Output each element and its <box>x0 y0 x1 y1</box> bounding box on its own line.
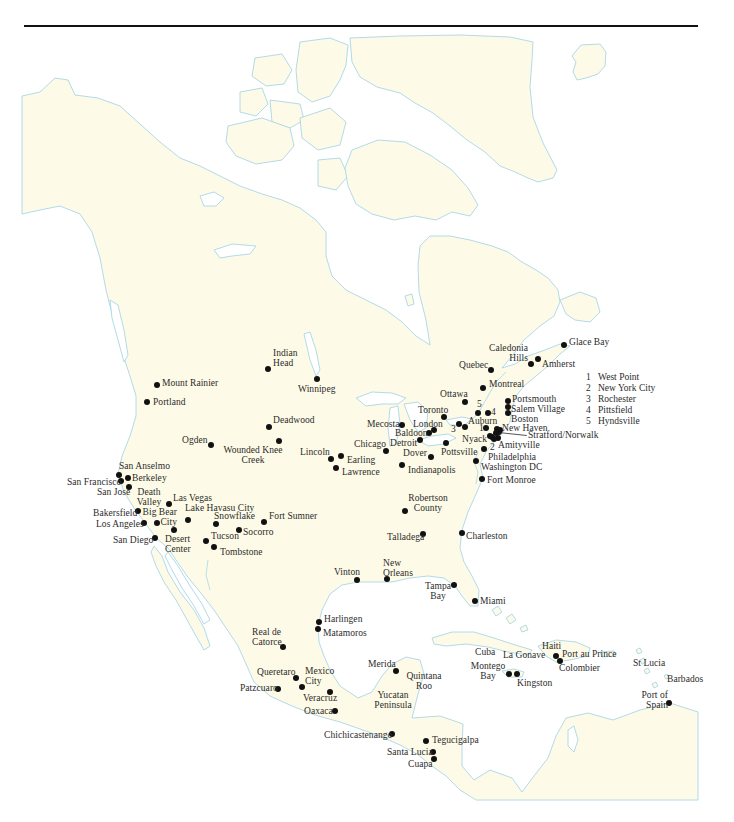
place-label-washington-dc[interactable]: Washington DC <box>481 462 542 472</box>
place-label-san-diego[interactable]: San Diego <box>113 535 153 545</box>
place-dot-pottsville[interactable] <box>443 440 449 446</box>
place-label-amityville[interactable]: Amityville <box>498 440 540 450</box>
place-label-snowflake[interactable]: Snowflake <box>214 511 255 521</box>
place-label-tampa-bay[interactable]: TampaBay <box>425 581 451 601</box>
place-label-port-of-spain[interactable]: Port ofSpain <box>642 690 668 710</box>
place-dot-tegucigalpa[interactable] <box>423 738 429 744</box>
place-dot-indian-head[interactable] <box>265 366 271 372</box>
place-label-baldoon[interactable]: Baldoon <box>395 428 428 438</box>
place-dot-wounded-knee-creek[interactable] <box>276 438 282 444</box>
place-dot-berkeley[interactable] <box>125 475 131 481</box>
place-label-cuba[interactable]: Cuba <box>475 647 495 657</box>
place-label-boston[interactable]: Boston <box>511 414 538 424</box>
place-label-cuapa[interactable]: Cuapa <box>408 759 433 769</box>
place-label-san-jose[interactable]: San Jose <box>97 487 130 497</box>
place-dot-tucson[interactable] <box>203 538 209 544</box>
numbered-place-dot-5[interactable] <box>475 410 481 416</box>
place-label-barbados[interactable]: Barbados <box>667 674 703 684</box>
place-label-patzcuaro[interactable]: Patzcuaro <box>240 683 278 693</box>
place-label-winnipeg[interactable]: Winnipeg <box>298 384 335 394</box>
place-dot-philadelphia[interactable] <box>481 446 487 452</box>
place-dot-portsmouth[interactable] <box>505 398 511 404</box>
place-dot-deadwood[interactable] <box>266 424 272 430</box>
place-label-harlingen[interactable]: Harlingen <box>324 614 362 624</box>
place-label-london[interactable]: London <box>413 419 443 429</box>
place-label-las-vegas[interactable]: Las Vegas <box>173 493 212 503</box>
place-label-san-francisco[interactable]: San Francisco <box>67 477 121 487</box>
place-dot-lawrence[interactable] <box>333 465 339 471</box>
place-label-haiti[interactable]: Haiti <box>542 641 561 651</box>
place-label-desert-center[interactable]: DesertCenter <box>165 534 191 554</box>
place-label-merida[interactable]: Merida <box>368 659 396 669</box>
place-label-detroit[interactable]: Detroit <box>390 438 417 448</box>
place-label-big-bear-city[interactable]: Big BearCity <box>143 507 177 527</box>
place-dot-charleston[interactable] <box>459 530 465 536</box>
place-label-bakersfield[interactable]: Bakersfield <box>93 508 137 518</box>
place-dot-harlingen[interactable] <box>316 619 322 625</box>
place-label-montreal[interactable]: Montreal <box>489 379 524 389</box>
place-label-stratford-norwalk[interactable]: Stratford/Norwalk <box>528 430 599 440</box>
place-dot-vinton[interactable] <box>354 577 360 583</box>
place-label-amherst[interactable]: Amherst <box>542 359 575 369</box>
place-label-la-gonave[interactable]: La Gonave <box>503 650 545 660</box>
place-label-yucatan-peninsula[interactable]: YucatanPeninsula <box>374 690 411 710</box>
place-label-mount-rainier[interactable]: Mount Rainier <box>162 378 218 388</box>
place-label-charleston[interactable]: Charleston <box>466 531 508 541</box>
place-label-philadelphia[interactable]: Philadelphia <box>488 452 536 462</box>
place-label-socorro[interactable]: Socorro <box>243 527 273 537</box>
place-label-real-de-catorce[interactable]: Real deCatorce <box>252 627 282 647</box>
place-dot-tampa-bay[interactable] <box>451 582 457 588</box>
place-label-miami[interactable]: Miami <box>480 596 506 606</box>
place-label-mexico-city[interactable]: MexicoCity <box>305 666 334 686</box>
place-label-dover[interactable]: Dover <box>403 448 427 458</box>
place-label-tombstone[interactable]: Tombstone <box>220 547 263 557</box>
place-label-matamoros[interactable]: Matamoros <box>323 628 367 638</box>
place-dot-desert-center[interactable] <box>171 527 177 533</box>
place-dot-quebec[interactable] <box>488 367 494 373</box>
place-dot-ottawa[interactable] <box>462 399 468 405</box>
place-dot-montego-bay[interactable] <box>506 671 512 677</box>
place-label-caledonia-hills[interactable]: CaledoniaHills <box>489 343 528 363</box>
place-dot-earling[interactable] <box>338 453 344 459</box>
place-label-nyack[interactable]: Nyack <box>462 434 487 444</box>
place-label-berkeley[interactable]: Berkeley <box>132 473 167 483</box>
place-label-queretaro[interactable]: Queretaro <box>257 667 295 677</box>
place-dot-dover[interactable] <box>428 454 434 460</box>
place-label-los-angeles[interactable]: Los Angeles <box>96 519 144 529</box>
place-dot-matamoros[interactable] <box>315 626 321 632</box>
place-label-new-orleans[interactable]: NewOrleans <box>383 558 413 578</box>
place-label-pottsville[interactable]: Pottsville <box>441 447 477 457</box>
place-label-chichicastenango[interactable]: Chichicastenango <box>324 730 392 740</box>
place-label-indianapolis[interactable]: Indianapolis <box>408 465 456 475</box>
place-label-tucson[interactable]: Tucson <box>211 531 239 541</box>
place-label-toronto[interactable]: Toronto <box>418 405 448 415</box>
place-dot-tombstone[interactable] <box>211 544 217 550</box>
place-label-earling[interactable]: Earling <box>347 455 375 465</box>
place-label-lawrence[interactable]: Lawrence <box>342 467 380 477</box>
place-dot-robertson-county[interactable] <box>402 508 408 514</box>
place-label-talladega[interactable]: Talladega <box>387 532 424 542</box>
place-label-oaxaca[interactable]: Oaxaca <box>304 706 333 716</box>
place-label-portland[interactable]: Portland <box>153 397 186 407</box>
place-label-deadwood[interactable]: Deadwood <box>273 415 315 425</box>
place-label-tegucigalpa[interactable]: Tegucigalpa <box>432 735 479 745</box>
place-label-quintana-roo[interactable]: QuintanaRoo <box>406 671 441 691</box>
place-label-ogden[interactable]: Ogden <box>182 435 208 445</box>
place-label-chicago[interactable]: Chicago <box>354 439 386 449</box>
place-label-portsmouth[interactable]: Portsmouth <box>512 394 556 404</box>
place-label-indian-head[interactable]: IndianHead <box>273 348 298 368</box>
place-dot-montreal[interactable] <box>480 385 486 391</box>
place-label-vinton[interactable]: Vinton <box>334 567 360 577</box>
place-dot-lake-havasu-city[interactable] <box>185 517 191 523</box>
place-label-wounded-knee-creek[interactable]: Wounded KneeCreek <box>223 445 282 465</box>
place-label-lincoln[interactable]: Lincoln <box>300 447 330 457</box>
place-dot-caledonia-hills[interactable] <box>528 361 534 367</box>
place-label-fort-monroe[interactable]: Fort Monroe <box>487 475 536 485</box>
place-label-san-anselmo[interactable]: San Anselmo <box>119 461 170 471</box>
place-label-robertson-county[interactable]: RobertsonCounty <box>408 493 448 513</box>
place-label-montego-bay[interactable]: MontegoBay <box>471 661 506 681</box>
place-label-kingston[interactable]: Kingston <box>517 678 552 688</box>
place-dot-snowflake[interactable] <box>213 521 219 527</box>
place-dot-ogden[interactable] <box>208 442 214 448</box>
place-label-ottawa[interactable]: Ottawa <box>440 389 468 399</box>
